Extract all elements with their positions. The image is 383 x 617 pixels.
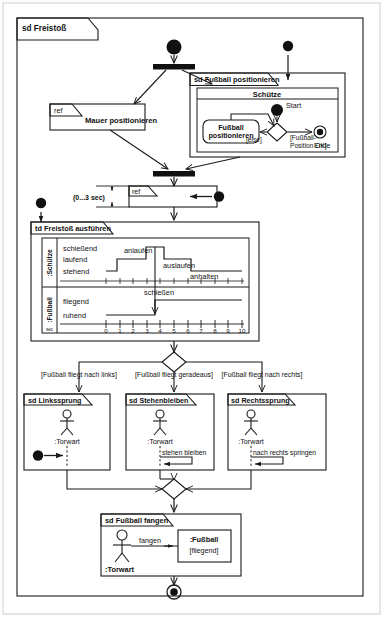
marker-two-label: 2 [217,193,221,202]
partition-label-schuetze: Schütze [253,90,281,99]
rechtssprung-label: sd Rechtssprung [231,396,290,405]
stehenbleiben-actor-label: :Torwart [147,437,173,446]
timing-annotation-anlaufen: anlaufen [124,246,152,255]
svg-text:7: 7 [199,327,203,334]
stehenbleiben-label: sd Stehenbleiben [129,396,189,405]
state-label-laufend: laufend [63,255,87,264]
svg-text:1: 1 [118,327,122,334]
svg-text:0: 0 [104,327,108,334]
object-line1: :Fußball [190,535,219,544]
end-label: Ende [314,142,330,149]
svg-text:2: 2 [131,327,135,334]
fangen-actor-label: :Torwart [105,565,135,574]
page-border [3,3,380,614]
fangen-label: sd Fußball fangen [105,516,169,525]
state-label-fliegend: fliegend [63,297,89,306]
diagram-canvas: sd Freistoß 1 sd Fußball positionieren S… [0,0,383,617]
linkssprung-label: sd Linkssprung [28,396,82,405]
svg-text:10: 10 [239,327,246,334]
timing-annotation-schiessen: schießen [144,288,174,297]
initial-node [167,40,182,55]
timing-frame-label: td Freistoß ausführen [35,224,111,233]
positionieren-frame-label: sd Fußball positionieren [194,75,280,84]
linkssprung-actor-label: :Torwart [54,437,80,446]
guard-rechts: [Fußball fliegt nach rechts] [222,371,303,379]
uml-diagram-svg: sd Freistoß 1 sd Fußball positionieren S… [0,0,383,617]
state-label-stehend: stehend [63,267,89,276]
fork-bar [153,64,195,70]
outer-frame-label: sd Freistoß [22,24,66,33]
svg-text:5: 5 [172,327,176,334]
object-line2: [fliegend] [189,546,218,555]
marker-three-label: 3 [39,199,43,208]
wait-ref-kind: ref [132,188,140,195]
state-label-ruhend: ruhend [63,311,86,320]
join-bar [153,171,195,177]
svg-text:3: 3 [145,327,149,334]
timing-lifeline-2: :Fußball [46,297,53,323]
stehenbleiben-message: stehen bleiben [162,449,206,456]
guard-else: [else] [246,136,262,144]
fangen-message: fangen [139,536,161,545]
state-label-schiessend: schießend [63,244,97,253]
guard-geradeaus: [Fußball fliegt geradeaus] [135,371,213,379]
mauer-ref-label: Mauer positionieren [85,116,158,125]
svg-text:9: 9 [226,327,230,334]
svg-text:6: 6 [186,327,190,334]
rechtssprung-actor-label: :Torwart [238,437,264,446]
start-node-inner [271,104,283,116]
timing-annotation-auslaufen: auslaufen [163,261,195,270]
wait-duration-label: (0...3 sec) [73,194,105,202]
rechtssprung-message: nach rechts springen [253,449,316,457]
timing-axis-unit: sec [46,327,54,332]
marker-one-label: 1 [286,42,290,51]
svg-text:8: 8 [213,327,217,334]
timing-annotation-anhalten: anhalten [190,272,218,281]
svg-text:4: 4 [158,327,162,334]
mauer-ref-kind: ref [54,106,62,115]
guard-links: [Fußball fliegt nach links] [41,371,117,379]
timing-lifeline-1: :Schütze [46,249,53,277]
start-label: Start [286,101,301,110]
